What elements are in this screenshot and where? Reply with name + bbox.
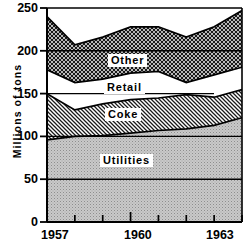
x-tick-label-1963: 1963 — [206, 228, 234, 242]
y-tick-label-200: 200 — [8, 44, 38, 58]
band-label-retail: Retail — [104, 81, 145, 94]
band-label-utilities: Utilities — [100, 154, 153, 167]
stacked-area-chart: Millions of tons 250 200 150 100 50 0 19… — [0, 0, 248, 250]
x-tick-label-1957: 1957 — [41, 228, 69, 242]
band-label-coke: Coke — [105, 108, 141, 121]
y-tick-label-50: 50 — [14, 172, 38, 186]
y-tick-label-0: 0 — [22, 215, 38, 229]
chart-canvas — [0, 0, 248, 250]
y-tick-label-250: 250 — [8, 1, 38, 15]
y-tick-label-100: 100 — [8, 129, 38, 143]
y-tick-marks — [40, 8, 47, 222]
x-tick-label-1960: 1960 — [124, 228, 152, 242]
y-tick-label-150: 150 — [8, 87, 38, 101]
band-label-other: Other — [108, 54, 147, 67]
y-axis-title: Millions of tons — [11, 46, 23, 176]
